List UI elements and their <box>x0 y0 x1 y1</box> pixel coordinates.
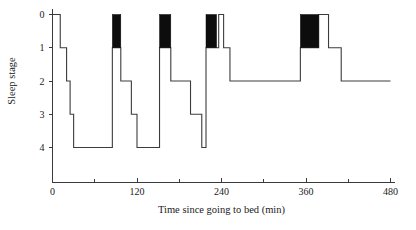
y-axis: 01234 <box>40 9 53 183</box>
x-tick-group: 0120240360480 <box>50 178 398 197</box>
y-tick-group: 01234 <box>40 9 53 153</box>
rem-period-block <box>112 15 120 48</box>
y-axis-title: Sleep stage <box>6 57 17 105</box>
x-tick-label-360: 360 <box>299 186 314 197</box>
sleep-stage-trace <box>53 15 391 148</box>
x-axis: 0120240360480 <box>50 178 398 197</box>
x-tick-label-120: 120 <box>130 186 145 197</box>
y-tick-label-4: 4 <box>40 142 45 153</box>
x-tick-label-240: 240 <box>214 186 229 197</box>
rem-period-block <box>300 15 318 48</box>
x-tick-label-480: 480 <box>383 186 398 197</box>
x-axis-title: Time since going to bed (min) <box>158 204 286 216</box>
rem-period-group <box>112 15 318 48</box>
x-tick-label-0: 0 <box>50 186 55 197</box>
sleep-stage-trace-group <box>53 15 391 148</box>
y-tick-label-2: 2 <box>40 76 45 87</box>
y-tick-label-3: 3 <box>40 109 45 120</box>
sleep-stage-chart: 01234 0120240360480 Time since going to … <box>0 0 416 230</box>
rem-period-block <box>206 15 217 48</box>
y-tick-label-0: 0 <box>40 9 45 20</box>
y-tick-label-1: 1 <box>40 42 45 53</box>
hypnogram-figure: 01234 0120240360480 Time since going to … <box>0 0 416 230</box>
rem-period-block <box>160 15 171 48</box>
